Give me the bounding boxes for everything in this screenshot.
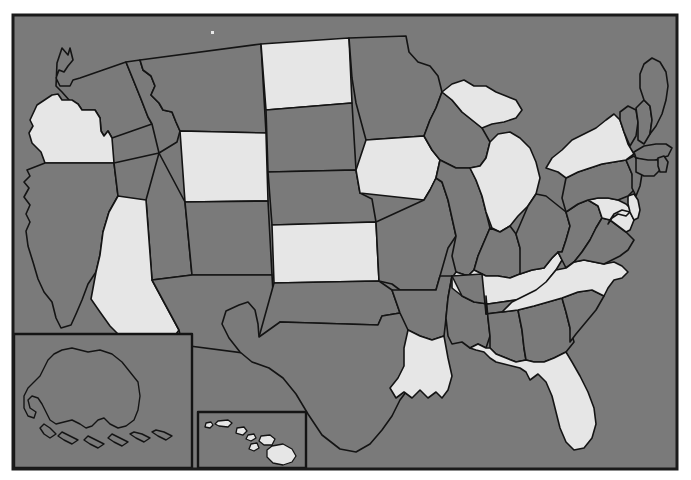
scan-speck-artifact [211, 31, 214, 34]
state-kansas[interactable] [272, 222, 379, 283]
state-south-dakota[interactable] [266, 103, 356, 172]
state-colorado[interactable] [185, 201, 272, 275]
state-north-dakota[interactable] [261, 38, 352, 110]
hawaii-inset [198, 412, 306, 468]
state-wyoming[interactable] [180, 131, 268, 202]
us-map-figure [0, 0, 691, 480]
alaska-inset [14, 334, 192, 468]
state-iowa[interactable] [356, 136, 440, 200]
state-connecticut[interactable] [636, 158, 660, 176]
state-rhode-island[interactable] [658, 156, 668, 172]
us-map-svg [0, 0, 691, 480]
